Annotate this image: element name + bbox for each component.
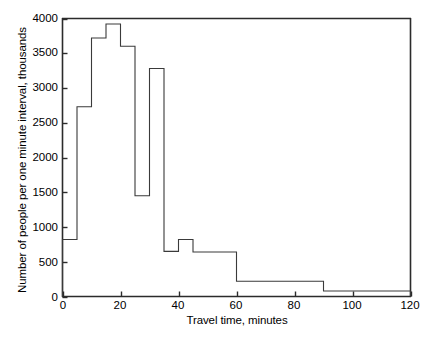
histogram-outline (63, 24, 411, 296)
chart-figure: Number of people per one minute interval… (0, 0, 434, 344)
plot-area (0, 0, 434, 344)
